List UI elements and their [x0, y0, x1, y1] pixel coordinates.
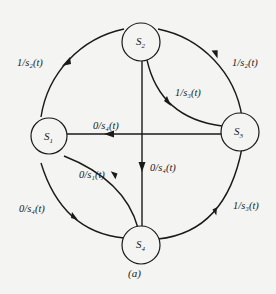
- label-s2-s3-inner: 1/s₃(t): [175, 87, 201, 99]
- label-s2-s4: 0/s₄(t): [150, 162, 176, 174]
- arrow-head-icon: [139, 162, 146, 172]
- edge-s1-s2: [41, 29, 124, 117]
- label-s1-s4-inner: 0/s₁(t): [79, 169, 105, 181]
- arrow-head-icon: [71, 212, 78, 220]
- label-s3-s1: 0/s₄(t): [93, 120, 119, 132]
- node-s2: S2: [122, 23, 160, 61]
- node-s3: S3: [221, 113, 259, 151]
- edge-s3-s1: [66, 131, 222, 138]
- edge-s2-s4: [139, 61, 146, 227]
- label-s4-s3: 1/s₃(t): [233, 200, 259, 212]
- label-s2-s3-outer: 1/s₂(t): [232, 57, 258, 69]
- arrow-head-icon: [104, 131, 114, 138]
- label-s1-s4-outer: 0/s₄(t): [19, 203, 45, 215]
- node-s4: S4: [122, 226, 160, 264]
- figure-caption: (a): [128, 267, 141, 280]
- arrow-head-icon: [62, 57, 71, 66]
- arrow-head-icon: [110, 171, 118, 179]
- label-s1-s2: 1/s₂(t): [17, 57, 43, 69]
- node-s1: S1: [31, 118, 67, 154]
- state-diagram: S1 S2 S3 S4 1/s₂(t) 1/s₂(t) 1/s₃(t) 0/s₄…: [0, 0, 276, 294]
